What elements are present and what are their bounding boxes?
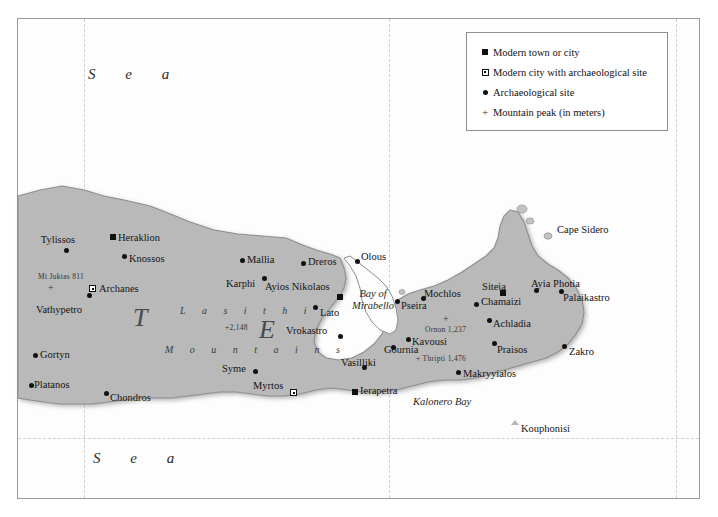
island-letter-t: T: [133, 303, 147, 333]
island-letter-e: E: [259, 315, 275, 345]
legend-label-2: Archaeological site: [493, 87, 574, 98]
coast-label-kouphonisi: Kouphonisi: [521, 423, 570, 434]
legend-item-archaeological-site: Archaeological site: [477, 82, 667, 102]
place-marker-ayios-nikolaos: [337, 294, 343, 300]
legend-label-1: Modern city with archaeological site: [493, 67, 647, 78]
legend-label-3: Mountain peak (in meters): [493, 107, 605, 118]
place-label-makryyialos: Makryyialos: [463, 368, 516, 379]
place-label-syme: Syme: [222, 363, 246, 374]
place-marker-gortyn: [33, 353, 38, 358]
place-label-lato: Lato: [320, 307, 339, 318]
place-marker-mallia: [240, 258, 245, 263]
place-label-kavousi: Kavousi: [412, 336, 447, 347]
place-label-pseira: Pseira: [401, 300, 427, 311]
place-marker-archanes: [89, 285, 96, 292]
place-label-vathypetro: Vathypetro: [36, 304, 82, 315]
place-label-achladia: Achladia: [493, 318, 531, 329]
place-label-gortyn: Gortyn: [40, 349, 70, 360]
place-label-mallia: Mallia: [247, 254, 274, 265]
square-with-dot-icon: [477, 69, 493, 76]
legend-label-0: Modern town or city: [493, 47, 580, 58]
bay-label-mirabello: Bay of Mirabello: [352, 288, 394, 312]
place-marker-vrokastro: [338, 334, 343, 339]
bay-label-kalonero: Kalonero Bay: [413, 396, 471, 408]
place-label-karphi: Karphi: [226, 278, 255, 289]
plus-icon: +: [477, 107, 493, 117]
place-label-siteia: Siteia: [482, 281, 506, 292]
islet-pseira: [399, 290, 405, 295]
place-label-ayia-photia: Ayia Photia: [531, 278, 580, 289]
place-label-myrtos: Myrtos: [253, 380, 283, 391]
peak-label-mt-juktas-811: Mt Juktas 811: [38, 272, 84, 281]
peak-label--2-148: +2,148: [225, 323, 248, 332]
place-label-palaikastro: Palaikastro: [563, 292, 610, 303]
place-marker-myrtos: [290, 389, 297, 396]
bay-label-mirabello-line1: Bay of: [352, 288, 394, 300]
place-marker-vathypetro: [87, 293, 92, 298]
islet-marker-kouphonisi: [511, 420, 519, 425]
place-label-praisos: Praisos: [497, 344, 527, 355]
filled-square-icon: [477, 49, 493, 55]
place-marker-knossos: [122, 254, 127, 259]
place-marker-zakro: [562, 344, 567, 349]
place-label-archanes: Archanes: [99, 283, 139, 294]
place-label-zakro: Zakro: [569, 346, 594, 357]
place-label-chamaizi: Chamaizi: [481, 296, 521, 307]
place-label-mochlos: Mochlos: [424, 288, 461, 299]
legend-item-mountain-peak: + Mountain peak (in meters): [477, 102, 667, 122]
place-marker-lato: [313, 305, 318, 310]
peak-label--thripti-1-476: + Thripti 1,476: [416, 354, 466, 363]
peak-label-ornon-1-237: Ornon 1,237: [425, 325, 466, 334]
place-label-platanos: Platanos: [34, 379, 70, 390]
place-marker-olous: [355, 259, 360, 264]
filled-circle-icon: [477, 90, 493, 95]
place-label-heraklion: Heraklion: [118, 232, 160, 243]
place-label-tylissos: Tylissos: [41, 234, 75, 245]
place-label-chondros: Chondros: [110, 392, 151, 403]
coast-label-cape-sidero: Cape Sidero: [557, 224, 609, 235]
place-marker-tylissos: [64, 248, 69, 253]
place-marker-chondros: [104, 391, 109, 396]
place-label-knossos: Knossos: [129, 253, 165, 264]
map-legend: Modern town or city Modern city with arc…: [466, 32, 668, 131]
place-marker-heraklion: [110, 234, 116, 240]
place-marker-ierapetra: [352, 389, 358, 395]
place-marker-chamaizi: [474, 302, 479, 307]
peak-plus-icon-ornon-1-237: +: [443, 315, 449, 323]
islet-3: [544, 233, 552, 239]
place-label-vrokastro: Vrokastro: [286, 325, 327, 336]
place-marker-syme: [253, 369, 258, 374]
place-marker-makryyialos: [456, 370, 461, 375]
range-label-lasithi: L a s i t h i: [180, 305, 314, 316]
legend-item-modern-town-archaeological: Modern city with archaeological site: [477, 62, 667, 82]
place-marker-pseira: [395, 299, 400, 304]
place-marker-dreros: [301, 261, 306, 266]
place-marker-achladia: [487, 318, 492, 323]
legend-item-modern-town: Modern town or city: [477, 42, 667, 62]
place-label-dreros: Dreros: [308, 256, 337, 267]
islet-2: [526, 218, 534, 224]
place-label-ayios-nikolaos: Ayios Nikolaos: [265, 281, 330, 292]
islet-1: [517, 205, 527, 213]
place-label-ierapetra: Ierapetra: [360, 385, 397, 396]
sea-label-south: S e a: [93, 450, 187, 467]
place-marker-kavousi: [406, 337, 411, 342]
range-label-mountains: M o u n t a i n s: [165, 344, 347, 355]
place-label-olous: Olous: [361, 251, 386, 262]
bay-label-mirabello-line2: Mirabello: [352, 300, 394, 312]
map-figure: S e a S e a Bay of Mirabello Kalonero Ba…: [0, 0, 718, 517]
sea-label-north: S e a: [88, 66, 182, 83]
peak-plus-icon-mt-juktas-811: +: [48, 284, 54, 292]
place-label-vasilliki: Vasilliki: [341, 357, 376, 368]
